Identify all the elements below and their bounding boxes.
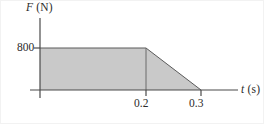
x-tick-label-03: 0.3 — [189, 98, 203, 110]
plot-area — [0, 0, 264, 124]
shaded-impulse-area — [40, 48, 201, 90]
y-axis-label: F (N) — [26, 2, 53, 14]
x-axis-label: t (s) — [241, 84, 260, 96]
y-axis-unit: (N) — [36, 1, 53, 13]
y-tick-label-800: 800 — [17, 42, 34, 54]
x-tick-label-02: 0.2 — [134, 98, 148, 110]
force-time-graph-figure: F (N) t (s) 800 0.2 0.3 — [0, 0, 264, 124]
x-axis-unit: (s) — [247, 83, 260, 95]
